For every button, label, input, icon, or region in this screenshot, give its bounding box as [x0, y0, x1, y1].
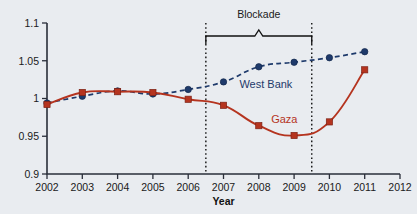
data-point-marker	[150, 89, 156, 95]
data-point-marker	[44, 101, 50, 107]
data-point-marker	[185, 96, 191, 102]
x-axis-title: Year	[212, 195, 234, 207]
data-point-marker	[291, 59, 297, 65]
y-tick-label: 0.9	[24, 168, 39, 180]
data-point-marker	[256, 64, 262, 70]
data-point-marker	[291, 132, 297, 138]
data-point-marker	[326, 119, 332, 125]
x-tick-label: 2003	[71, 181, 95, 193]
x-tick-label: 2010	[318, 181, 342, 193]
data-point-marker	[362, 48, 368, 54]
x-tick-label: 2005	[141, 181, 165, 193]
x-tick-label: 2007	[212, 181, 236, 193]
x-tick-label: 2011	[353, 181, 376, 193]
x-tick-label: 2004	[106, 181, 130, 193]
data-point-marker	[220, 102, 226, 108]
y-tick-label: 0.95	[19, 130, 40, 142]
y-tick-label: 1.1	[24, 17, 39, 29]
data-point-marker	[326, 55, 332, 61]
data-point-marker	[220, 79, 226, 85]
data-point-marker	[362, 67, 368, 73]
data-point-marker	[185, 86, 191, 92]
data-point-marker	[115, 89, 121, 95]
x-tick-label: 2002	[35, 181, 59, 193]
series-label-west-bank: West Bank	[239, 78, 292, 90]
y-tick-label: 1.05	[19, 55, 40, 67]
data-point-marker	[256, 123, 262, 129]
economy-index-line-chart: 0.90.9511.051.1 200220032004200520062007…	[0, 0, 417, 214]
series-label-gaza: Gaza	[271, 113, 298, 125]
x-tick-label: 2006	[177, 181, 201, 193]
blockade-label: Blockade	[237, 8, 280, 20]
y-tick-label: 1	[33, 92, 39, 104]
data-point-marker	[79, 89, 85, 95]
x-tick-label: 2008	[247, 181, 271, 193]
chart-container: 0.90.9511.051.1 200220032004200520062007…	[0, 0, 417, 214]
x-tick-label: 2012	[388, 181, 412, 193]
x-tick-label: 2009	[282, 181, 306, 193]
